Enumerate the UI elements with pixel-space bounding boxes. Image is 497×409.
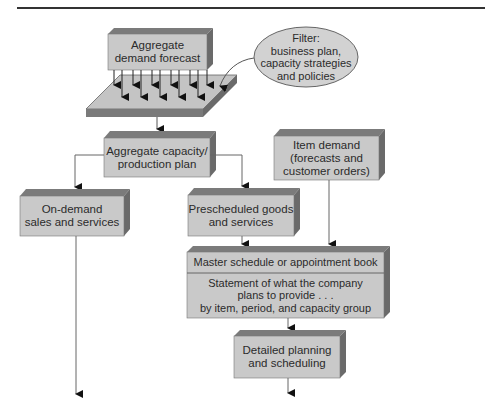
label-line: (forecasts and [290, 152, 363, 165]
aggregate-demand-label: Aggregate demand forecast [108, 34, 207, 70]
label-line: by item, period, and capacity group [200, 302, 371, 315]
master-schedule-title: Master schedule or appointment book [187, 252, 384, 273]
label-line: Prescheduled goods [189, 203, 294, 216]
label-line: Aggregate [131, 39, 184, 52]
label-line: and scheduling [248, 357, 325, 370]
label-line: and services [209, 216, 274, 229]
label-line: On-demand [42, 203, 103, 216]
label-line: and policies [277, 70, 335, 83]
label-line: Statement of what the company [208, 277, 363, 290]
label-line: Item demand [293, 139, 360, 152]
aggregate-capacity-label: Aggregate capacity/ production plan [104, 138, 210, 177]
label-line: Filter: [292, 32, 320, 45]
label-line: capacity strategies [260, 57, 351, 70]
label-line: plans to provide . . . [238, 289, 334, 302]
label-line: Aggregate capacity/ [106, 145, 208, 158]
label-line: business plan, [271, 45, 341, 58]
filter-label: Filter: business plan, capacity strategi… [254, 28, 358, 86]
label-line: customer orders) [283, 165, 370, 178]
master-schedule-description: Statement of what the company plans to p… [187, 273, 384, 318]
label-line: production plan [118, 158, 197, 171]
filter-plate [86, 75, 237, 117]
label-line: Master schedule or appointment book [193, 256, 377, 269]
prescheduled-label: Prescheduled goods and services [188, 195, 294, 236]
item-demand-label: Item demand (forecasts and customer orde… [274, 136, 379, 180]
label-line: demand forecast [115, 52, 201, 65]
detailed-planning-label: Detailed planning and scheduling [234, 336, 340, 378]
label-line: Detailed planning [243, 344, 332, 357]
label-line: sales and services [25, 216, 120, 229]
on-demand-label: On-demand sales and services [20, 196, 124, 236]
